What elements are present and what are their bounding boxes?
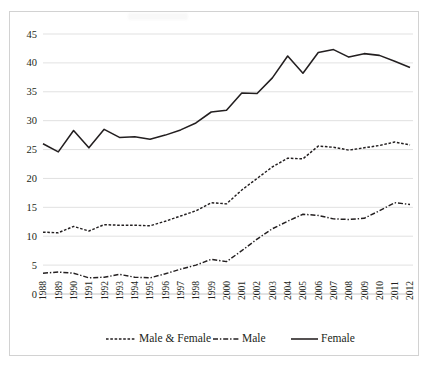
x-tick-label: 2002 <box>252 281 262 300</box>
x-tick-label: 2009 <box>360 281 370 300</box>
x-tick-label: 2005 <box>298 281 308 300</box>
x-tick-label: 1990 <box>69 281 79 300</box>
x-tick-label: 1996 <box>161 281 171 300</box>
x-tick-label: 1988 <box>38 281 48 300</box>
y-tick-label: 5 <box>32 260 37 271</box>
x-tick-label: 2007 <box>329 281 339 300</box>
x-tick-label: 1997 <box>176 281 186 300</box>
x-tick-label: 1991 <box>84 281 94 300</box>
y-axis-tick-labels: 051015202530354045 <box>27 29 38 300</box>
y-tick-label: 0 <box>32 289 37 300</box>
x-tick-label: 1995 <box>145 281 155 300</box>
series-line-female <box>43 50 410 152</box>
x-tick-label: 2000 <box>222 281 232 300</box>
y-tick-label: 35 <box>27 86 38 97</box>
x-tick-label: 2010 <box>375 281 385 300</box>
line-chart: 051015202530354045 198819891990199119921… <box>10 12 418 355</box>
y-tick-label: 40 <box>27 57 38 68</box>
x-tick-label: 1992 <box>100 281 110 300</box>
x-tick-label: 1998 <box>191 281 201 300</box>
x-tick-label: 2004 <box>283 281 293 300</box>
y-tick-label: 30 <box>27 115 38 126</box>
y-tick-label: 25 <box>27 144 38 155</box>
x-tick-label: 2011 <box>390 281 400 300</box>
x-tick-label: 1994 <box>130 281 140 300</box>
y-tick-label: 15 <box>27 202 38 213</box>
y-tick-label: 10 <box>27 231 38 242</box>
gridlines <box>43 34 413 294</box>
x-tick-label: 1999 <box>207 281 217 300</box>
x-axis-tick-labels: 1988198919901991199219931994199519961997… <box>38 281 415 300</box>
chart-figure: 051015202530354045 198819891990199119921… <box>9 11 419 356</box>
legend-label-male-female: Male & Female <box>139 332 211 344</box>
x-tick-label: 2003 <box>268 281 278 300</box>
x-tick-label: 1993 <box>115 281 125 300</box>
x-tick-label: 1989 <box>54 281 64 300</box>
legend-label-male: Male <box>242 332 266 344</box>
y-tick-label: 20 <box>27 173 38 184</box>
y-tick-label: 45 <box>27 29 38 40</box>
x-tick-label: 2008 <box>344 281 354 300</box>
x-tick-label: 2001 <box>237 281 247 300</box>
chart-legend: Male & FemaleMaleFemale <box>106 332 355 344</box>
x-tick-label: 2012 <box>405 281 415 300</box>
legend-label-female: Female <box>321 332 355 344</box>
x-tick-label: 2006 <box>314 281 324 300</box>
series-line-male <box>43 203 410 278</box>
series-lines <box>43 50 410 278</box>
